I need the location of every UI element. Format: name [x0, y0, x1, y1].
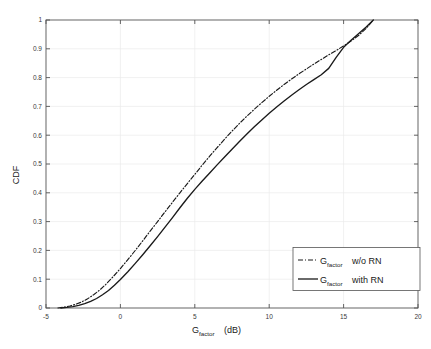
cdf-chart: -50510152000.10.20.30.40.50.60.70.80.91 …	[0, 0, 431, 349]
x-tick-label: 10	[266, 313, 274, 320]
x-axis-title-unit: (dB)	[224, 325, 241, 335]
x-axis-title-main: G	[192, 325, 199, 335]
x-tick-label: 15	[340, 313, 348, 320]
y-tick-label: 0.6	[33, 132, 42, 139]
x-tick-label: -5	[43, 313, 49, 320]
legend-label-sub-0: factor	[327, 261, 342, 268]
y-tick-label: 0.3	[33, 218, 42, 225]
legend-label-tail-1: with RN	[351, 275, 384, 285]
legend-label-main-1: G	[320, 275, 327, 285]
y-tick-label: 0.1	[33, 276, 42, 283]
y-axis-title: CDF	[11, 165, 21, 184]
y-tick-label: 0.7	[33, 103, 42, 110]
y-axis-title-text: CDF	[11, 165, 21, 184]
y-tick-label: 0.5	[33, 160, 42, 167]
figure-background	[0, 0, 431, 349]
legend-label-main-0: G	[320, 256, 327, 266]
x-axis-title-sub: factor	[199, 330, 214, 337]
x-tick-label: 0	[119, 313, 123, 320]
y-tick-label: 0.8	[33, 74, 42, 81]
x-tick-label: 20	[414, 313, 422, 320]
y-tick-label: 0	[38, 304, 42, 311]
y-tick-label: 1	[38, 16, 42, 23]
legend-label-sub-1: factor	[327, 280, 342, 287]
legend-label-tail-0: w/o RN	[351, 256, 382, 266]
y-tick-label: 0.2	[33, 247, 42, 254]
legend-box[interactable]: G factor w/o RN G factor with RN	[293, 248, 420, 291]
y-tick-label: 0.9	[33, 45, 42, 52]
figure-container: -50510152000.10.20.30.40.50.60.70.80.91 …	[0, 0, 431, 349]
y-tick-label: 0.4	[33, 189, 42, 196]
x-tick-label: 5	[193, 313, 197, 320]
